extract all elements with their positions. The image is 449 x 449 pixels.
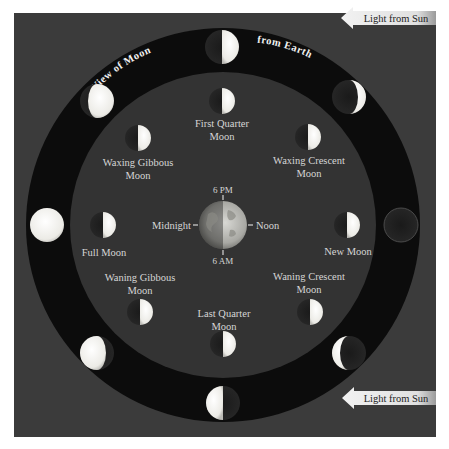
outer-moon-waning-crescent-icon — [332, 336, 366, 370]
inner-moon-waxing-gibbous-icon — [125, 125, 151, 151]
inner-moon-waning-gibbous-icon — [127, 299, 153, 325]
inner-moon-new-moon-icon — [334, 212, 360, 238]
outer-moon-last-quarter-icon — [206, 386, 240, 420]
inner-moon-full-moon-icon — [90, 212, 116, 238]
outer-moon-full-moon-icon — [30, 208, 64, 242]
moon-phases-diagram: View of Moon from Earth — [0, 0, 449, 449]
inner-moon-waning-crescent-icon — [297, 299, 323, 325]
inner-moon-waxing-crescent-icon — [295, 124, 321, 150]
label-new-moon: New Moon — [324, 246, 372, 257]
label-waxing-crescent-line2: Moon — [296, 168, 322, 179]
sun-arrow-top: Light from Sun — [341, 7, 436, 29]
label-waning-gibbous-line1: Waning Gibbous — [105, 272, 176, 283]
label-last-quarter-line2: Moon — [211, 321, 237, 332]
label-first-quarter-line1: First Quarter — [195, 118, 249, 129]
outer-moon-waxing-gibbous-icon — [80, 84, 114, 118]
inner-moon-first-quarter-icon — [209, 88, 235, 114]
inner-moon-last-quarter-icon — [210, 331, 236, 357]
sun-arrow-bottom: Light from Sun — [342, 387, 436, 409]
sun-arrow-top-label: Light from Sun — [364, 13, 429, 24]
time-label-6pm: 6 PM — [213, 185, 233, 195]
label-last-quarter-line1: Last Quarter — [198, 308, 251, 319]
outer-moon-new-moon-icon — [384, 208, 418, 242]
label-first-quarter-line2: Moon — [209, 131, 235, 142]
label-waxing-gibbous-line2: Moon — [125, 170, 151, 181]
label-waxing-crescent-line1: Waxing Crescent — [273, 155, 345, 166]
label-waning-crescent-line2: Moon — [296, 284, 322, 295]
sun-arrow-bottom-label: Light from Sun — [364, 393, 429, 404]
label-waning-crescent-line1: Waning Crescent — [273, 271, 345, 282]
label-full-moon: Full Moon — [82, 247, 127, 258]
time-label-noon: Noon — [256, 220, 280, 231]
time-label-midnight: Midnight — [152, 220, 191, 231]
earth-icon — [199, 201, 247, 249]
outer-moon-waxing-crescent-icon — [332, 80, 366, 114]
time-label-6am: 6 AM — [213, 256, 234, 266]
outer-moon-waning-gibbous-icon — [80, 336, 114, 370]
label-waning-gibbous-line2: Moon — [127, 285, 153, 296]
outer-moon-first-quarter-icon — [205, 30, 239, 64]
label-waxing-gibbous-line1: Waxing Gibbous — [103, 157, 174, 168]
